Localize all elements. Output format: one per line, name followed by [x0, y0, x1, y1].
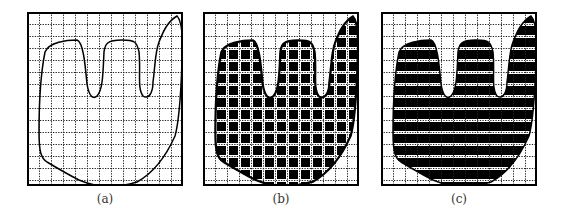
caption-b: (b) — [203, 192, 359, 206]
panel-a-outline — [27, 12, 183, 186]
panel-b-cell-fill — [203, 12, 359, 186]
panel-c-row-fill — [381, 12, 537, 186]
caption-c: (c) — [381, 192, 537, 206]
caption-a: (a) — [27, 192, 183, 206]
